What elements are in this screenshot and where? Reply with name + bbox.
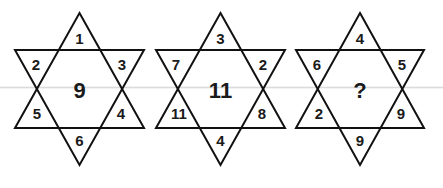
star-1-center-number: 9: [73, 78, 85, 103]
star-2-upper-right-number: 2: [259, 56, 267, 73]
star-1: 1 2 3 5 4 6 9: [15, 13, 144, 165]
star-3-center-unknown: ?: [353, 78, 366, 103]
star-3-bottom-number: 9: [356, 132, 364, 149]
star-3-lower-left-number: 2: [315, 105, 323, 122]
star-2-upper-left-number: 7: [172, 56, 180, 73]
star-1-upper-left-number: 2: [32, 56, 40, 73]
star-3-lower-right-number: 9: [397, 105, 405, 122]
star-2-bottom-number: 4: [216, 132, 225, 149]
star-2: 3 7 2 11 8 4 11: [156, 13, 285, 165]
star-2-lower-right-number: 8: [258, 105, 266, 122]
star-3-upper-right-number: 5: [398, 56, 406, 73]
star-2-center-number: 11: [209, 78, 232, 103]
star-1-lower-left-number: 5: [33, 105, 41, 122]
star-2-top-number: 3: [216, 30, 224, 47]
stars-figure: 1 2 3 5 4 6 9 3 7 2 11 8 4 11 4 6 5 2: [0, 0, 443, 188]
star-1-lower-right-number: 4: [117, 105, 126, 122]
star-1-bottom-number: 6: [75, 132, 83, 149]
star-3-upper-left-number: 6: [313, 56, 321, 73]
star-1-upper-right-number: 3: [118, 56, 126, 73]
star-2-lower-left-number: 11: [171, 105, 187, 122]
puzzle-canvas: 1 2 3 5 4 6 9 3 7 2 11 8 4 11 4 6 5 2: [0, 0, 443, 188]
star-3-top-number: 4: [356, 30, 365, 47]
star-1-top-number: 1: [75, 30, 83, 47]
star-3: 4 6 5 2 9 9 ?: [296, 13, 424, 165]
